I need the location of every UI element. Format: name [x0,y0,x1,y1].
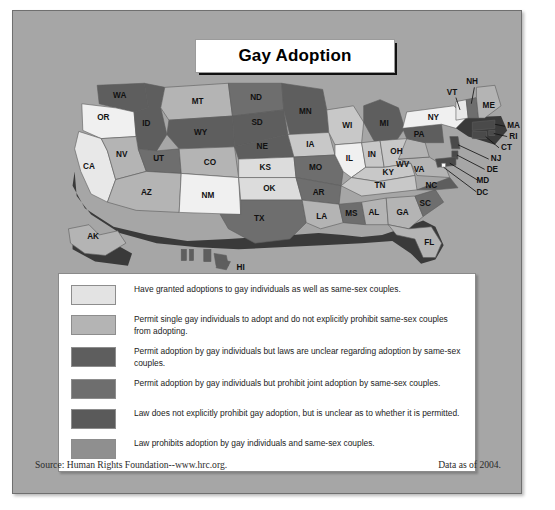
svg-text:OH: OH [390,147,402,156]
callout-RI: RI [509,132,517,141]
page-root: Gay Adoption [0,0,555,510]
source-text: Source: Human Rights Foundation--www.hrc… [35,459,227,470]
svg-text:GA: GA [396,208,408,217]
title-box: Gay Adoption [195,39,395,73]
callout-DE: DE [487,165,499,174]
svg-text:ND: ND [250,93,262,102]
svg-text:HI: HI [237,263,245,272]
callout-MD: MD [476,176,489,185]
page-title: Gay Adoption [238,46,351,66]
svg-text:AR: AR [313,188,325,197]
svg-text:MS: MS [345,209,358,218]
us-map-svg: WA OR CA ID NV UT AZ MT WY CO NM ND SD N… [25,73,522,278]
legend-swatch-6 [71,439,116,459]
svg-text:LA: LA [316,212,327,221]
callout-MA: MA [507,121,520,130]
legend-item: Have granted adoptions to gay individual… [71,284,463,305]
legend-label-4: Permit adoption by gay individuals but p… [134,378,440,390]
svg-text:OR: OR [97,113,109,122]
svg-text:MO: MO [309,163,323,172]
svg-text:IA: IA [306,140,314,149]
svg-text:FL: FL [424,238,434,247]
svg-text:SC: SC [419,199,430,208]
callout-NJ: NJ [491,154,501,163]
svg-text:PA: PA [414,130,425,139]
callout-NH: NH [466,77,478,86]
legend-label-6: Law prohibits adoption by gay individual… [134,438,375,450]
state-RI [489,130,495,135]
svg-text:WV: WV [396,160,410,169]
legend-item: Permit single gay individuals to adopt a… [71,314,463,337]
footer: Source: Human Rights Foundation--www.hrc… [35,459,501,470]
svg-text:AL: AL [368,208,379,217]
svg-text:MI: MI [380,119,389,128]
legend-label-1: Have granted adoptions to gay individual… [134,284,401,296]
state-NC [417,178,458,190]
legend-swatch-3 [71,347,116,367]
legend-item: Permit adoption by gay individuals but l… [71,346,463,369]
svg-text:AK: AK [87,232,99,241]
svg-text:IN: IN [368,150,376,159]
svg-text:WY: WY [194,128,208,137]
state-CT [472,131,486,138]
svg-text:MN: MN [299,107,312,116]
legend-swatch-4 [71,379,116,399]
state-NJ [450,137,460,149]
legend-swatch-5 [71,409,116,429]
legend-item: Permit adoption by gay individuals but p… [71,378,463,399]
svg-text:SD: SD [251,118,262,127]
legend-swatch-2 [71,315,116,335]
svg-text:CO: CO [204,158,217,167]
legend-label-2: Permit single gay individuals to adopt a… [134,314,463,337]
callout-VT: VT [447,88,457,97]
legend-swatch-1 [71,285,116,305]
svg-text:KS: KS [260,163,272,172]
svg-text:CA: CA [83,162,95,171]
svg-text:KY: KY [383,168,395,177]
svg-text:NC: NC [425,181,437,190]
svg-text:AZ: AZ [141,188,152,197]
svg-text:NE: NE [257,142,269,151]
svg-text:WI: WI [342,121,352,130]
legend-label-5: Law does not explicitly prohibit gay ado… [134,408,459,420]
svg-text:IL: IL [346,154,353,163]
svg-text:NV: NV [116,150,128,159]
state-HI [181,249,230,269]
legend-item: Law prohibits adoption by gay individual… [71,438,463,459]
callout-DC: DC [476,188,488,197]
svg-text:NY: NY [428,113,440,122]
state-DC [442,163,446,167]
svg-text:OK: OK [263,184,275,193]
state-MA [472,120,495,130]
svg-text:UT: UT [153,154,164,163]
svg-text:MT: MT [192,97,204,106]
data-date-text: Data as of 2004. [438,459,501,470]
callout-CT: CT [501,143,512,152]
svg-text:WA: WA [113,91,126,100]
figure-panel: Gay Adoption [12,10,522,494]
svg-text:TX: TX [254,214,265,223]
svg-text:VA: VA [414,165,425,174]
svg-text:ME: ME [483,101,496,110]
svg-text:TN: TN [375,181,386,190]
us-map: WA OR CA ID NV UT AZ MT WY CO NM ND SD N… [25,73,522,278]
svg-text:NM: NM [202,191,215,200]
svg-text:ID: ID [142,119,150,128]
legend-label-3: Permit adoption by gay individuals but l… [134,346,463,369]
legend-panel: Have granted adoptions to gay individual… [58,273,476,472]
legend-item: Law does not explicitly prohibit gay ado… [71,408,463,429]
